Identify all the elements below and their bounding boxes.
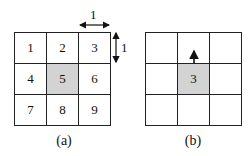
grid-b-cell-8 [178,95,210,126]
grid-b-cell-4 [146,64,178,95]
grid-b-cell-1 [146,33,178,64]
grid-b-cell-9 [210,95,242,126]
caption-b: (b) [173,133,213,149]
grid-b-cell-3 [210,33,242,64]
grid-b-cell-5-highlighted: 3 [178,64,210,95]
grid-b: 3 [145,32,242,126]
grid-b-cell-7 [146,95,178,126]
grid-b-cell-2 [178,33,210,64]
grid-b-cell-6 [210,64,242,95]
